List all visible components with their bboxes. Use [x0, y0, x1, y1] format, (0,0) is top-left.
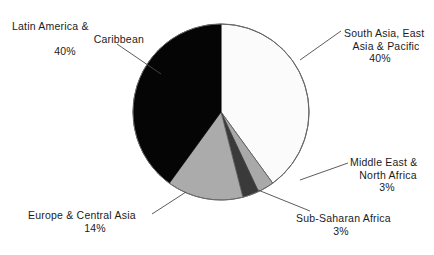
slice-label-line: North Africa: [350, 169, 430, 182]
slice-label-percent: 40%: [344, 52, 432, 65]
slice-label-percent: 3%: [296, 225, 420, 238]
slice-label-line: Europe & Central Asia: [28, 209, 164, 222]
leader-line-middle-east: [300, 163, 348, 180]
pie-chart-figure: Latin America & Caribbean 40% South Asia…: [0, 0, 434, 255]
slice-label-line: Sub-Saharan Africa: [296, 212, 420, 225]
slice-label-line: South Asia, East: [344, 27, 432, 40]
slice-label-line: Asia & Pacific: [344, 40, 432, 53]
slice-label-line: Latin America &: [12, 20, 144, 33]
slice-label-percent: 40%: [12, 45, 144, 58]
slice-label-sub-saharan-africa: Sub-Saharan Africa 3%: [296, 212, 420, 237]
slice-label-europe-central-asia: Europe & Central Asia 14%: [28, 209, 164, 234]
slice-label-percent: 14%: [28, 222, 164, 235]
slice-label-line: Middle East &: [350, 156, 430, 169]
slice-label-line: Caribbean: [12, 33, 144, 46]
slice-label-middle-east-north-africa: Middle East & North Africa 3%: [350, 156, 430, 194]
leader-line-sub-saharan: [258, 190, 310, 211]
slice-label-latin-america-caribbean: Latin America & Caribbean 40%: [12, 20, 144, 58]
leader-line-south-asia: [300, 31, 341, 60]
slice-label-percent: 3%: [350, 181, 430, 194]
slice-label-south-asia-east-asia-pacific: South Asia, East Asia & Pacific 40%: [344, 27, 432, 65]
